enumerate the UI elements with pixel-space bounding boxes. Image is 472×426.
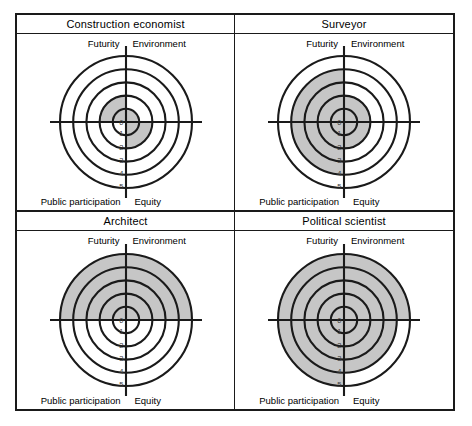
radar-target-chart: 012345 xyxy=(17,34,234,210)
chart-panel-political-scientist: Political scientist Futurity Environment… xyxy=(235,212,453,409)
radar-target-chart: 012345 xyxy=(235,34,453,210)
radial-tick-label-3: 3 xyxy=(337,156,341,165)
radial-tick-label-0: 0 xyxy=(337,316,341,325)
radar-target-chart: 012345 xyxy=(235,231,453,409)
radial-tick-label-2: 2 xyxy=(119,143,123,152)
radial-tick-label-3: 3 xyxy=(337,354,341,363)
chart-panel-construction-economist: Construction economist Futurity Environm… xyxy=(17,15,235,212)
chart-title: Architect xyxy=(17,212,234,231)
radial-tick-label-4: 4 xyxy=(119,367,123,376)
radial-tick-label-0: 0 xyxy=(337,118,341,127)
radial-tick-label-2: 2 xyxy=(119,341,123,350)
radial-tick-label-5: 5 xyxy=(119,182,123,191)
radial-tick-label-2: 2 xyxy=(337,143,341,152)
radial-tick-label-4: 4 xyxy=(119,169,123,178)
radar-target-chart: 012345 xyxy=(17,231,234,409)
radial-tick-label-5: 5 xyxy=(337,380,341,389)
radial-tick-label-1: 1 xyxy=(119,327,123,336)
chart-title: Political scientist xyxy=(235,212,453,231)
radial-tick-label-3: 3 xyxy=(119,156,123,165)
chart-title: Construction economist xyxy=(17,15,234,34)
radial-tick-label-2: 2 xyxy=(337,341,341,350)
radial-tick-label-1: 1 xyxy=(119,129,123,138)
figure-panel-grid: Construction economist Futurity Environm… xyxy=(15,13,455,411)
radial-tick-label-1: 1 xyxy=(337,129,341,138)
chart-body: Futurity Environment Public participatio… xyxy=(235,231,453,409)
chart-body: Futurity Environment Public participatio… xyxy=(235,34,453,210)
radial-tick-label-5: 5 xyxy=(337,182,341,191)
chart-body: Futurity Environment Public participatio… xyxy=(17,231,234,409)
radial-tick-label-4: 4 xyxy=(337,367,341,376)
chart-panel-architect: Architect Futurity Environment Public pa… xyxy=(17,212,235,409)
chart-title: Surveyor xyxy=(235,15,453,34)
radial-tick-label-1: 1 xyxy=(337,327,341,336)
chart-panel-surveyor: Surveyor Futurity Environment Public par… xyxy=(235,15,453,212)
radial-tick-label-4: 4 xyxy=(337,169,341,178)
radial-tick-label-0: 0 xyxy=(119,316,123,325)
radial-tick-label-5: 5 xyxy=(119,380,123,389)
radial-tick-label-0: 0 xyxy=(119,118,123,127)
radial-tick-label-3: 3 xyxy=(119,354,123,363)
chart-body: Futurity Environment Public participatio… xyxy=(17,34,234,210)
